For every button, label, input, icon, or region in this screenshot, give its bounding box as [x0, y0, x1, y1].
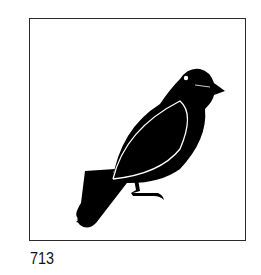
figure-caption: 713 — [30, 250, 54, 268]
symbol-frame — [29, 18, 246, 241]
bird-icon — [30, 19, 245, 240]
